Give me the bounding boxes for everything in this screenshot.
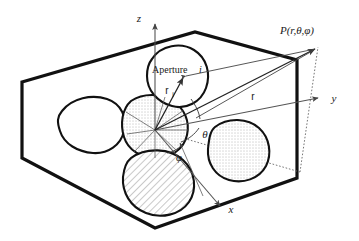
axis-label-y: y — [331, 92, 337, 104]
angle-theta-label: θ — [202, 128, 208, 140]
aperture-blob-i — [147, 46, 208, 107]
axis-label-z: z — [136, 12, 142, 24]
diagram-svg: z y x P(r,θ,φ) Aperture i r i r θ φ — [0, 0, 359, 241]
projection-line-vertical — [300, 47, 318, 172]
aperture-blob-right — [208, 120, 269, 181]
aperture-label-text: Aperture — [152, 64, 188, 75]
aperture-blob-bottom — [123, 150, 194, 215]
point-p-label: P(r,θ,φ) — [279, 24, 314, 37]
figure-container: z y x P(r,θ,φ) Aperture i r i r θ φ — [0, 0, 359, 241]
angle-phi-label: φ — [176, 151, 182, 163]
axis-label-x: x — [228, 203, 234, 215]
aperture-label-index: i — [199, 64, 202, 75]
